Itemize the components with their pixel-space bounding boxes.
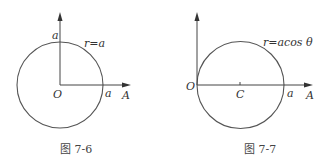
polar-axis-arrow-icon (122, 83, 131, 88)
right-intercept-label: a (105, 87, 112, 100)
polar-axis-arrow-icon (304, 83, 313, 88)
vertical-axis-arrow-icon (195, 12, 200, 21)
figure-caption: 图 7-6 (60, 143, 92, 156)
center-label: C (236, 88, 245, 101)
curve-label: r=acos θ (263, 36, 313, 49)
polar-circle-diagrams: a r=a O a A 图 7-6 r=acos θ O C a A 图 7-7 (0, 0, 329, 163)
top-intercept-label: a (52, 29, 59, 42)
vertical-axis-arrow-icon (58, 12, 63, 21)
origin-label: O (53, 88, 62, 101)
right-intercept-label: a (287, 87, 294, 100)
figure-caption: 图 7-7 (244, 143, 276, 156)
origin-label: O (186, 80, 195, 93)
figure-7-6: a r=a O a A 图 7-6 (17, 12, 131, 156)
polar-axis-label: A (305, 89, 314, 102)
curve-label: r=a (84, 37, 105, 50)
figure-7-7: r=acos θ O C a A 图 7-7 (186, 12, 314, 156)
polar-axis-label: A (121, 89, 130, 102)
